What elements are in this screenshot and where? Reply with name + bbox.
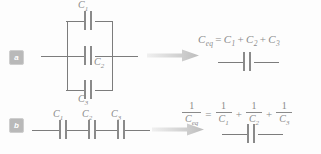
series-capacitor-c3-plate-left [117, 120, 119, 139]
capacitor-c2-plate-right [90, 46, 92, 65]
parallel-left-lead [41, 56, 67, 57]
series-capacitor-c2-plate-left [88, 120, 90, 139]
series-c2-symbol: C [82, 108, 89, 119]
equivalent-capacitor-b-left-lead [222, 134, 247, 135]
equivalent-capacitor-b-plate-left [247, 124, 249, 143]
parallel-top-branch-right [95, 21, 113, 22]
eq-a-term2: C [246, 33, 254, 45]
arrow-right-parallel-icon [147, 49, 199, 62]
eq-b-t3-den-symbol: C [279, 113, 286, 124]
eq-a-term1-sub: 1 [231, 39, 235, 48]
fraction-term1: 1 C1 [216, 101, 232, 127]
eq-b-lhs-den-sub: eq [192, 119, 199, 127]
c1-subscript: 1 [85, 5, 89, 13]
equivalent-capacitor-b-plate-right [253, 124, 255, 143]
eq-a-lhs: C [198, 33, 206, 45]
capacitor-c1-label: C1 [78, 0, 88, 13]
eq-b-t3-num: 1 [279, 101, 290, 112]
series-capacitor-c2-plate-right [94, 120, 96, 139]
eq-a-plus1: + [236, 33, 247, 45]
parallel-top-branch-left [66, 21, 84, 22]
equivalent-capacitor-a-plate-right [249, 52, 251, 71]
series-capacitor-c2-label: C2 [82, 108, 92, 122]
equivalent-capacitor-b-right-lead [258, 134, 283, 135]
parallel-right-lead [112, 56, 138, 57]
eq-b-equals: = [203, 108, 213, 120]
part-label-a: a [9, 50, 24, 65]
equivalent-capacitor-a-left-lead [218, 62, 243, 63]
parallel-bottom-branch-left [66, 90, 84, 91]
eq-b-t3-den: C3 [276, 113, 292, 127]
equivalent-capacitor-a-plate-left [243, 52, 245, 71]
parallel-middle-branch-left [66, 56, 84, 57]
series-c3-symbol: C [111, 108, 118, 119]
eq-b-t1-den: C1 [216, 113, 232, 127]
part-label-b: b [9, 118, 24, 133]
fraction-term3: 1 C3 [276, 101, 292, 127]
capacitor-c3-plate-right [90, 80, 92, 99]
eq-b-lhs-num: 1 [186, 101, 197, 112]
eq-b-t1-num: 1 [218, 101, 229, 112]
c2-subscript: 2 [101, 62, 105, 70]
eq-b-t3-den-sub: 3 [286, 119, 290, 127]
parallel-bottom-branch-right [95, 90, 113, 91]
series-c1-symbol: C [53, 108, 60, 119]
series-c1-subscript: 1 [60, 114, 64, 122]
equation-series: 1 Ceq = 1 C1 + 1 C2 + 1 C3 [182, 101, 292, 127]
c3-symbol: C [78, 93, 85, 104]
c1-symbol: C [78, 0, 85, 10]
eq-b-plus2: + [264, 108, 274, 120]
eq-b-t2-den-sub: 2 [256, 119, 260, 127]
eq-a-term3: C [268, 33, 276, 45]
series-wire-c2-c3 [94, 130, 117, 131]
series-c3-subscript: 3 [118, 114, 122, 122]
equation-parallel: Ceq=C1+C2+C3 [198, 33, 280, 48]
eq-a-plus2: + [258, 33, 269, 45]
series-wire-c1-c2 [65, 130, 88, 131]
eq-b-lhs-den-symbol: C [185, 113, 192, 124]
series-lead-right [123, 130, 150, 131]
capacitor-c1-plate-right [90, 11, 92, 30]
capacitor-c3-label: C3 [78, 93, 88, 107]
series-capacitor-c1-label: C1 [53, 108, 63, 122]
capacitor-c2-plate-left [84, 46, 86, 65]
series-lead-left [32, 130, 59, 131]
equivalent-capacitor-a-right-lead [254, 62, 279, 63]
series-capacitor-c1-plate-right [65, 120, 67, 139]
c3-subscript: 3 [85, 99, 89, 107]
series-c2-subscript: 2 [89, 114, 93, 122]
eq-b-t2-den-symbol: C [249, 113, 256, 124]
eq-b-lhs-den: Ceq [182, 113, 201, 127]
eq-b-t1-den-sub: 1 [225, 119, 229, 127]
c2-symbol: C [94, 56, 101, 67]
eq-b-t2-num: 1 [248, 101, 259, 112]
series-capacitor-c1-plate-left [59, 120, 61, 139]
eq-b-plus1: + [234, 108, 244, 120]
capacitor-combination-figure: a C1 C2 C3 Ceq=C [0, 0, 321, 154]
series-capacitor-c3-plate-right [123, 120, 125, 139]
capacitor-c2-label: C2 [94, 56, 104, 70]
series-capacitor-c3-label: C3 [111, 108, 121, 122]
capacitor-c1-plate-left [84, 11, 86, 30]
eq-a-term3-sub: 3 [276, 39, 280, 48]
fraction-lhs: 1 Ceq [182, 101, 201, 127]
eq-a-equals: = [213, 33, 224, 45]
